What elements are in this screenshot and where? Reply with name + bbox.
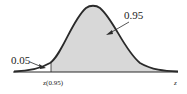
shaded-area-0.95 [14, 6, 178, 72]
diagram-canvas: 0.95 0.05 z(0.95) z [0, 0, 187, 94]
normal-curve-diagram: 0.95 0.05 z(0.95) z [0, 0, 187, 94]
label-left-area: 0.05 [11, 54, 31, 66]
label-axis-z: z [173, 79, 177, 87]
label-right-area: 0.95 [124, 9, 144, 21]
label-critical-value: z(0.95) [43, 79, 64, 87]
